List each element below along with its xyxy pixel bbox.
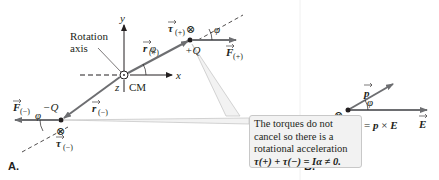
- svg-text:(+): (+): [149, 48, 159, 57]
- force-plus-label: F (+): [225, 44, 243, 61]
- tau-plus-label: τ (+) ⊗: [168, 20, 195, 37]
- into-page-icon: ⊗: [56, 125, 65, 137]
- tau-minus-label: ⊗ τ (−): [56, 125, 73, 152]
- svg-text:p: p: [363, 87, 370, 99]
- svg-text:r: r: [92, 102, 97, 114]
- y-axis-label: y: [119, 12, 125, 24]
- callout-pointer-left: [64, 118, 249, 124]
- panel-a-label: A.: [8, 160, 19, 172]
- svg-text:(−): (−): [98, 108, 108, 117]
- diagram-canvas: y x z CM Rotation axis +Q −Q φ φ φ r (+)…: [0, 0, 439, 180]
- negative-charge-label: −Q: [43, 101, 58, 113]
- x-axis-label: x: [175, 69, 181, 81]
- angle-label-plus: φ: [214, 23, 220, 35]
- svg-text:(−): (−): [63, 143, 73, 152]
- svg-text:E: E: [418, 118, 426, 130]
- callout-line-3: rotational acceleration: [254, 143, 357, 156]
- angle-arc-plus: [209, 29, 212, 40]
- svg-text:(−): (−): [20, 107, 30, 116]
- positive-charge-dot: [188, 38, 193, 43]
- dipole-axis-dashed-upper: [198, 15, 243, 40]
- into-page-icon: ⊗: [186, 23, 195, 35]
- negative-charge-dot: [59, 118, 64, 123]
- svg-text:τ: τ: [168, 22, 174, 34]
- angle-label-minus: φ: [35, 109, 41, 121]
- E-label: E: [418, 114, 427, 130]
- z-axis-label: z: [114, 81, 120, 93]
- callout-line-2: cancel so there is a: [254, 131, 357, 144]
- svg-text:τ: τ: [56, 137, 62, 149]
- torque-callout-box: The torques do not cancel so there is a …: [249, 115, 362, 168]
- angle-arc-minus: [40, 120, 43, 131]
- svg-text:(+): (+): [233, 52, 243, 61]
- svg-text:r: r: [143, 42, 148, 54]
- panel-a: y x z CM Rotation axis +Q −Q φ φ φ r (+)…: [8, 12, 249, 172]
- rotation-axis-label-1: Rotation: [70, 30, 108, 42]
- rotation-axis-label-2: axis: [70, 42, 88, 54]
- callout-line-1: The torques do not: [254, 118, 357, 131]
- r-minus-label: r (−): [92, 100, 108, 117]
- rotation-axis-pointer: [98, 48, 121, 72]
- positive-charge-label: +Q: [185, 44, 200, 56]
- svg-text:(+): (+): [175, 28, 185, 37]
- dipole-center-dot: [346, 108, 351, 113]
- force-minus-label: F (−): [12, 99, 30, 116]
- callout-equation: τ(+) + τ(−) = Iα ≠ 0.: [254, 156, 357, 169]
- cm-label: CM: [129, 81, 146, 93]
